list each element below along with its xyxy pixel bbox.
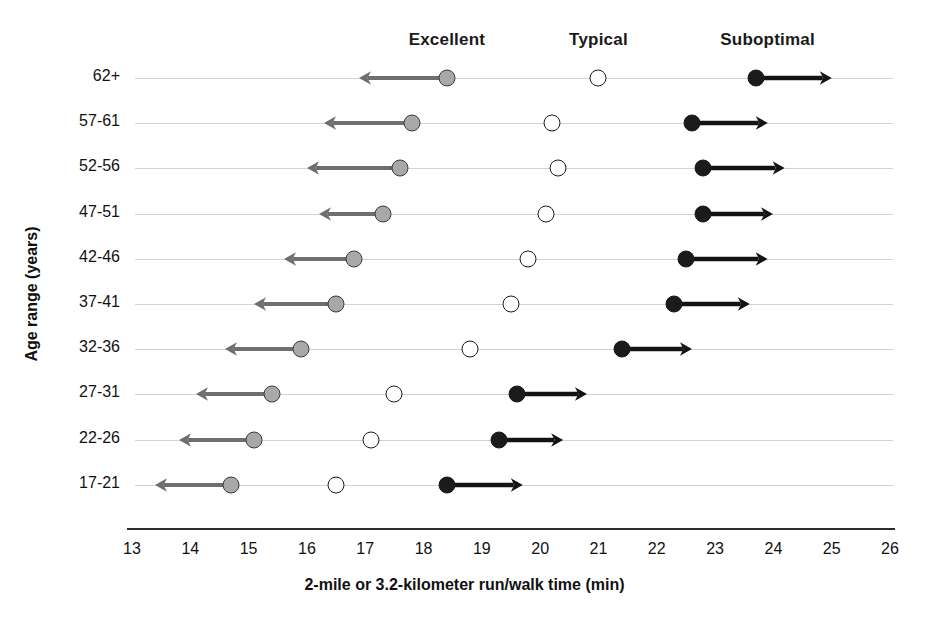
x-tick-18: 18: [415, 540, 433, 558]
marker-excellent: [246, 431, 263, 448]
marker-excellent: [403, 115, 420, 132]
marker-suboptimal: [508, 386, 525, 403]
marker-excellent: [263, 386, 280, 403]
zone-header-excellent: Excellent: [409, 30, 485, 50]
x-tick-15: 15: [240, 540, 258, 558]
marker-typical: [462, 341, 479, 358]
x-tick-26: 26: [881, 540, 899, 558]
marker-suboptimal: [438, 476, 455, 493]
zone-header-suboptimal: Suboptimal: [720, 30, 815, 50]
fitness-chart: Excellent Typical Suboptimal Age range (…: [0, 0, 929, 627]
marker-excellent: [392, 160, 409, 177]
marker-typical: [503, 296, 520, 313]
row-label-52-56: 52-56: [0, 157, 120, 175]
marker-typical: [549, 160, 566, 177]
x-axis-line: [127, 528, 895, 530]
x-tick-24: 24: [764, 540, 782, 558]
marker-excellent: [374, 205, 391, 222]
marker-suboptimal: [695, 160, 712, 177]
x-tick-22: 22: [648, 540, 666, 558]
marker-suboptimal: [666, 296, 683, 313]
x-tick-20: 20: [531, 540, 549, 558]
x-tick-25: 25: [823, 540, 841, 558]
marker-excellent: [345, 250, 362, 267]
x-axis-title: 2-mile or 3.2-kilometer run/walk time (m…: [0, 576, 929, 594]
row-gridline: [135, 259, 893, 260]
marker-excellent: [438, 70, 455, 87]
x-tick-16: 16: [298, 540, 316, 558]
row-label-27-31: 27-31: [0, 383, 120, 401]
marker-excellent: [223, 476, 240, 493]
x-tick-14: 14: [181, 540, 199, 558]
marker-typical: [543, 115, 560, 132]
row-label-22-26: 22-26: [0, 429, 120, 447]
x-tick-23: 23: [706, 540, 724, 558]
row-label-57-61: 57-61: [0, 112, 120, 130]
row-label-37-41: 37-41: [0, 293, 120, 311]
marker-suboptimal: [683, 115, 700, 132]
row-gridline: [135, 123, 893, 124]
marker-excellent: [293, 341, 310, 358]
row-label-62plus: 62+: [0, 67, 120, 85]
x-tick-13: 13: [123, 540, 141, 558]
marker-suboptimal: [695, 205, 712, 222]
x-tick-17: 17: [356, 540, 374, 558]
x-tick-19: 19: [473, 540, 491, 558]
marker-suboptimal: [491, 431, 508, 448]
marker-typical: [328, 476, 345, 493]
row-label-42-46: 42-46: [0, 248, 120, 266]
row-label-17-21: 17-21: [0, 474, 120, 492]
marker-excellent: [328, 296, 345, 313]
marker-suboptimal: [677, 250, 694, 267]
row-label-32-36: 32-36: [0, 338, 120, 356]
x-tick-21: 21: [590, 540, 608, 558]
marker-suboptimal: [613, 341, 630, 358]
marker-typical: [386, 386, 403, 403]
row-label-47-51: 47-51: [0, 203, 120, 221]
marker-typical: [590, 70, 607, 87]
marker-typical: [537, 205, 554, 222]
marker-suboptimal: [747, 70, 764, 87]
marker-typical: [520, 250, 537, 267]
zone-header-typical: Typical: [569, 30, 628, 50]
marker-typical: [363, 431, 380, 448]
